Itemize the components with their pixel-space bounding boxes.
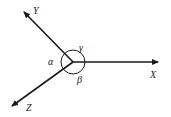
- beta-label: β: [76, 74, 82, 85]
- y-axis-label: Y: [33, 5, 40, 16]
- axes-diagram: Y X Z α γ β: [0, 0, 171, 117]
- z-axis-label: Z: [26, 102, 32, 113]
- alpha-label: α: [48, 56, 54, 67]
- gamma-label: γ: [79, 42, 84, 53]
- x-axis-label: X: [149, 69, 157, 80]
- z-axis: [12, 62, 73, 106]
- y-axis: [24, 12, 73, 62]
